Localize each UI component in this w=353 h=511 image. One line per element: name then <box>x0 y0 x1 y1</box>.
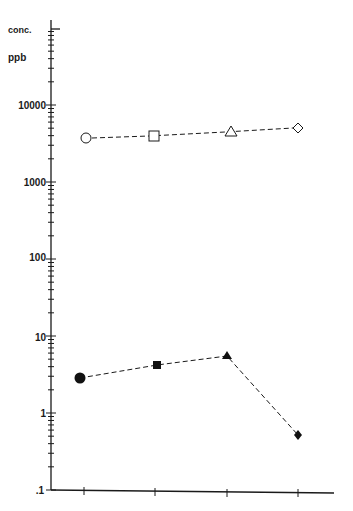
y-tick-10000: 10000 <box>18 100 46 111</box>
y-axis-title-line1: conc. <box>8 25 32 35</box>
y-tick-0-1: .1 <box>36 485 45 496</box>
filled-circle-marker <box>75 373 86 384</box>
y-tick-10: 10 <box>35 332 47 343</box>
y-tick-1000: 1000 <box>24 177 47 188</box>
open-triangle-marker <box>225 126 237 136</box>
axes <box>51 20 334 493</box>
series-lower <box>75 351 303 440</box>
y-axis-title-line2: ppb <box>8 52 26 63</box>
y-tick-100: 100 <box>29 252 46 263</box>
y-tick-labels: 10000 1000 100 10 1 .1 <box>18 100 46 496</box>
series-upper <box>81 123 303 143</box>
x-axis-line <box>51 490 334 493</box>
chart: conc. ppb 10000 1000 100 10 1 .1 <box>0 0 353 511</box>
open-diamond-marker <box>293 123 303 133</box>
filled-triangle-marker <box>222 351 232 359</box>
y-tick-1: 1 <box>40 408 46 419</box>
open-circle-marker <box>81 133 91 143</box>
filled-square-marker <box>153 361 161 369</box>
open-square-marker <box>149 131 159 141</box>
